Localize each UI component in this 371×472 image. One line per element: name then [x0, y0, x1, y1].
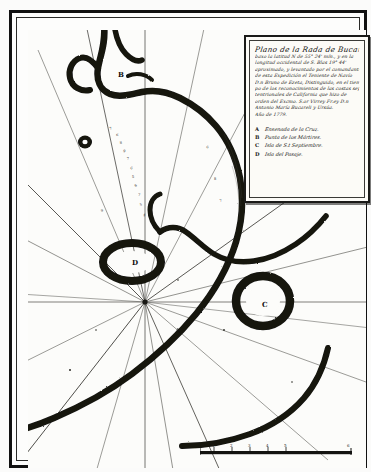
scale-bar-graphic	[200, 444, 352, 460]
chart-sheet: 768976567549687 B D C A Plano de la Rada…	[0, 0, 371, 472]
cartouche-title-line: Plano de la Rada de Bucareli, situada	[254, 45, 359, 54]
scale-tick-3: 3	[248, 443, 251, 448]
cartouche-inner-border: Plano de la Rada de Bucareli, situadabax…	[249, 40, 365, 198]
cartouche-title-line: Antonio María Bucareli y Ursúa.	[254, 105, 359, 111]
chart-frame: 768976567549687 B D C A Plano de la Rada…	[9, 10, 367, 468]
legend-label: Isla de S.t Septiembre.	[264, 141, 323, 149]
compass-rose-center	[142, 299, 147, 304]
cartouche-title-block: Plano de la Rada de Bucareli, situadabax…	[255, 45, 359, 118]
legend-row: DIsla del Pasaje.	[255, 150, 359, 158]
legend-key: A	[255, 125, 262, 133]
map-label-B: B	[118, 70, 124, 79]
cartouche-legend: AEnsenada de la Cruz.BPunta de los Márti…	[255, 125, 359, 158]
map-label-D: D	[132, 258, 138, 267]
scale-tick-1: 1	[212, 443, 215, 448]
legend-key: D	[255, 150, 262, 158]
cartouche-title-line: Año de 1779.	[254, 112, 359, 118]
legend-key: B	[255, 133, 262, 141]
scale-bar: 1 2 3 4 5 6	[200, 444, 352, 460]
cartouche-title-line: longitud occidental de S. Blas 19° 44'	[254, 60, 359, 66]
map-label-A: A	[175, 326, 180, 335]
legend-label: Isla del Pasaje.	[264, 150, 303, 158]
scale-tick-6: 6	[347, 443, 350, 448]
islet-rock	[78, 136, 92, 149]
legend-key: C	[255, 141, 262, 149]
cartouche-title-line: tentrionales de California que hizo de	[254, 92, 359, 98]
cartouche-title-line: de esta Expedición el Teniente de Navío	[254, 73, 359, 79]
scale-tick-5: 5	[284, 443, 287, 448]
scale-tick-2: 2	[230, 443, 233, 448]
map-label-C: C	[262, 300, 268, 309]
scale-tick-4: 4	[266, 443, 269, 448]
legend-row: CIsla de S.t Septiembre.	[255, 141, 359, 149]
title-cartouche: Plano de la Rada de Bucareli, situadabax…	[244, 35, 370, 203]
